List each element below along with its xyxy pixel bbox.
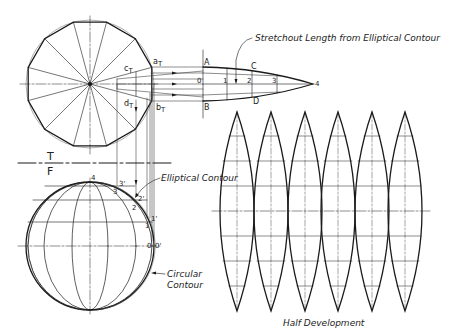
label-A: A bbox=[204, 58, 210, 67]
label-f1: 1 bbox=[145, 222, 149, 230]
gore-5 bbox=[355, 112, 389, 311]
circular-contour-label-2: Contour bbox=[167, 280, 204, 290]
label-s0: 0 bbox=[197, 77, 201, 85]
label-s4: 4 bbox=[315, 80, 320, 88]
top-view bbox=[20, 16, 160, 155]
label-D: D bbox=[253, 97, 259, 106]
label-f3: 3 bbox=[113, 188, 117, 196]
label-C: C bbox=[251, 62, 257, 71]
elliptical-contour-label: Elliptical Contour bbox=[161, 173, 239, 183]
gore-3 bbox=[288, 112, 322, 311]
label-f4: 4 bbox=[91, 174, 96, 182]
label-c-t: cT bbox=[124, 64, 133, 75]
elliptical-leader bbox=[137, 178, 160, 195]
label-b-t: bT bbox=[156, 103, 166, 114]
half-development-label: Half Development bbox=[283, 318, 365, 328]
label-f3p: 3' bbox=[119, 180, 125, 188]
projector-arrows bbox=[135, 72, 178, 186]
label-s3: 3 bbox=[272, 77, 276, 85]
gore-6 bbox=[388, 112, 422, 311]
label-f2: 2 bbox=[132, 204, 136, 212]
label-s1: 1 bbox=[223, 77, 227, 85]
gore-2 bbox=[254, 112, 288, 311]
gore-4 bbox=[321, 112, 355, 311]
label-d-t: dT bbox=[124, 99, 134, 110]
label-f0: 0 bbox=[147, 242, 151, 250]
label-f2p: 2' bbox=[138, 195, 144, 203]
stretchout-leader bbox=[236, 38, 252, 82]
circular-contour-label-1: Circular bbox=[167, 269, 203, 279]
drawing-canvas: Stretchout Length from Elliptical Contou… bbox=[0, 0, 458, 336]
projection-lines bbox=[117, 67, 203, 241]
label-f1p: 1' bbox=[151, 215, 157, 223]
label-a-t: aT bbox=[153, 57, 163, 68]
label-f0p: 0' bbox=[155, 242, 161, 250]
plane-label-top: T bbox=[46, 150, 54, 163]
label-s2: 2 bbox=[247, 77, 251, 85]
label-B: B bbox=[204, 103, 210, 112]
top-center-point bbox=[89, 83, 92, 86]
half-development bbox=[212, 112, 432, 311]
stretchout-label: Stretchout Length from Elliptical Contou… bbox=[255, 33, 441, 43]
stretchout-shape bbox=[203, 50, 313, 118]
plane-label-front: F bbox=[47, 165, 53, 178]
labels: Stretchout Length from Elliptical Contou… bbox=[46, 33, 441, 328]
gore-1 bbox=[220, 112, 254, 311]
